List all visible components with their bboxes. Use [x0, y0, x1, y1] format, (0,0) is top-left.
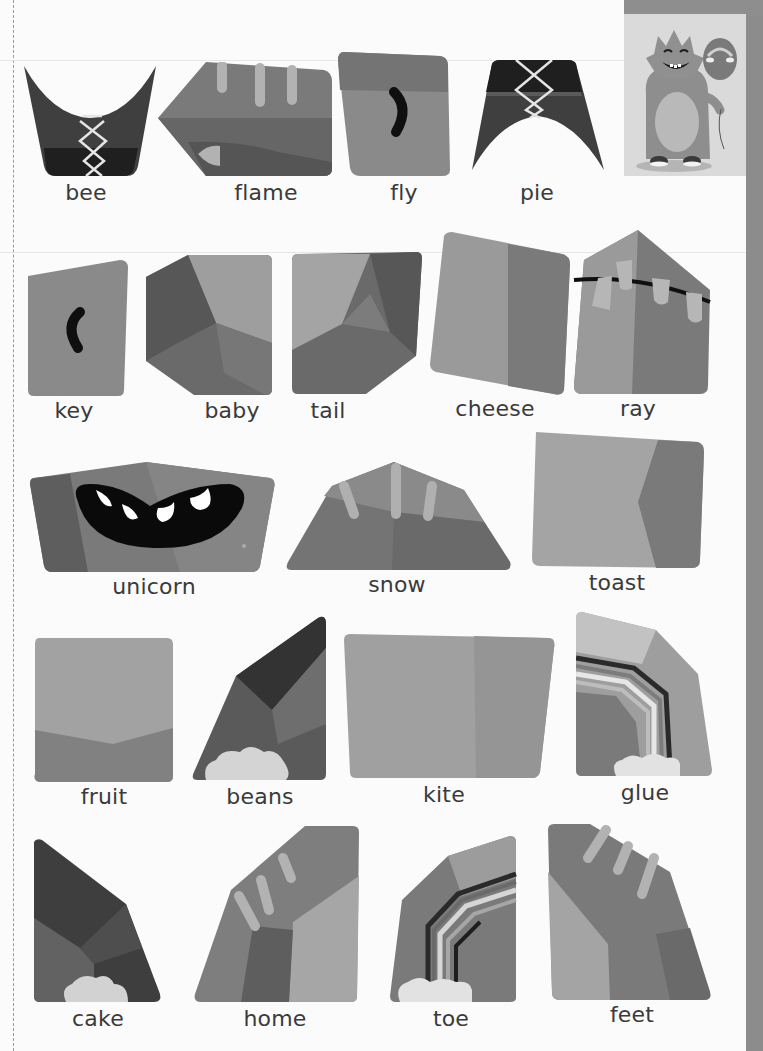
puzzle-piece-toast[interactable] [530, 432, 706, 570]
word-label: cake [18, 1006, 178, 1031]
puzzle-piece-flame[interactable] [158, 62, 334, 178]
word-label: unicorn [74, 574, 234, 599]
word-label: snow [317, 572, 477, 597]
puzzle-piece-bee[interactable] [22, 66, 158, 178]
puzzle-piece-unicorn[interactable] [30, 462, 276, 574]
puzzle-piece-baby[interactable] [144, 253, 274, 397]
puzzle-piece-cheese[interactable] [430, 232, 572, 396]
puzzle-piece-beans[interactable] [192, 614, 328, 782]
puzzle-piece-ray[interactable] [572, 230, 712, 396]
word-label: key [0, 398, 154, 423]
puzzle-piece-snow[interactable] [284, 462, 512, 572]
puzzle-piece-pie[interactable] [470, 60, 606, 174]
word-label: flame [186, 180, 346, 205]
puzzle-piece-fly[interactable] [336, 52, 452, 178]
word-label: beans [180, 784, 340, 809]
puzzle-piece-tail[interactable] [290, 252, 424, 396]
puzzle-piece-feet[interactable] [546, 822, 712, 1002]
puzzle-piece-toe[interactable] [388, 836, 518, 1004]
word-label: fruit [24, 784, 184, 809]
cut-line [13, 0, 14, 1051]
monster-illustration [624, 14, 746, 176]
monster-character-card [624, 14, 746, 176]
word-label: pie [457, 180, 617, 205]
word-label: toast [537, 570, 697, 595]
puzzle-piece-key[interactable] [24, 260, 130, 398]
puzzle-piece-cake[interactable] [32, 838, 162, 1004]
word-label: toe [371, 1006, 531, 1031]
puzzle-piece-glue[interactable] [576, 612, 714, 778]
puzzle-piece-fruit[interactable] [33, 638, 175, 784]
word-label: tail [248, 398, 408, 423]
word-label: glue [565, 780, 725, 805]
word-label: home [195, 1006, 355, 1031]
word-label: bee [6, 180, 166, 205]
page-edge-strip [746, 0, 763, 1051]
word-label: feet [552, 1002, 712, 1027]
word-label: cheese [415, 396, 575, 421]
word-label: kite [364, 782, 524, 807]
word-label: ray [558, 396, 718, 421]
puzzle-piece-kite[interactable] [344, 634, 558, 780]
puzzle-piece-home[interactable] [193, 826, 361, 1004]
